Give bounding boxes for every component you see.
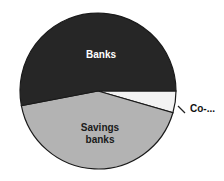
pie-slices xyxy=(20,13,176,169)
label-savings-line1: Savings xyxy=(81,122,120,133)
co-leader-line xyxy=(178,106,185,113)
label-banks: Banks xyxy=(86,49,116,60)
label-savings-line2: banks xyxy=(86,134,115,145)
pie-chart: Banks Savings banks Co-... xyxy=(0,0,224,181)
label-co: Co-... xyxy=(190,103,215,114)
